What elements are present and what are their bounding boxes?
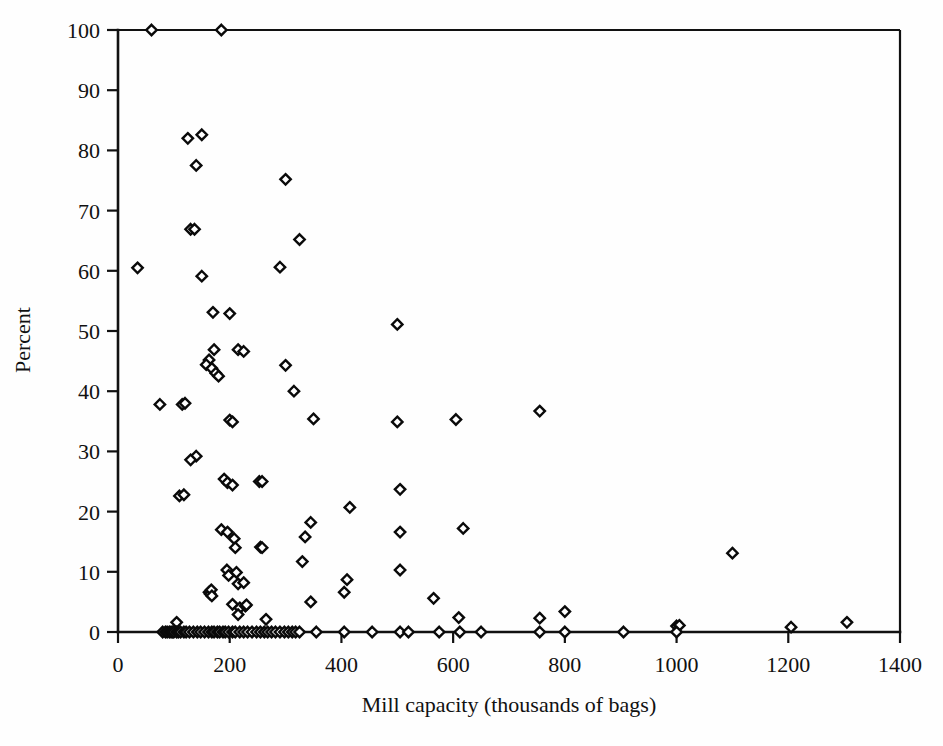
axis-tick-labels: 0102030405060708090100020040060080010001… [67, 18, 922, 677]
data-point [191, 160, 201, 170]
data-point [216, 25, 226, 35]
data-point [308, 414, 318, 424]
data-point [454, 612, 464, 622]
data-point [392, 319, 402, 329]
data-point [455, 627, 465, 637]
data-point [230, 543, 240, 553]
y-tick-label-90: 90 [78, 78, 100, 103]
data-point [458, 523, 468, 533]
data-point [367, 627, 377, 637]
x-tick-label-800: 800 [548, 652, 581, 677]
data-point [155, 399, 165, 409]
y-tick-label-60: 60 [78, 259, 100, 284]
data-point [197, 271, 207, 281]
data-point [403, 627, 413, 637]
data-point [535, 406, 545, 416]
y-tick-label-40: 40 [78, 379, 100, 404]
data-point [560, 627, 570, 637]
data-point [306, 597, 316, 607]
data-point [345, 502, 355, 512]
y-tick-label-0: 0 [89, 620, 100, 645]
x-tick-label-0: 0 [113, 652, 124, 677]
data-point [727, 548, 737, 558]
data-point [132, 263, 142, 273]
data-point [311, 627, 321, 637]
data-point [535, 613, 545, 623]
scatter-chart-figure: 0102030405060708090100020040060080010001… [0, 0, 943, 746]
x-tick-label-1000: 1000 [655, 652, 699, 677]
data-point [183, 133, 193, 143]
data-point [275, 262, 285, 272]
data-point [261, 614, 271, 624]
data-point [208, 307, 218, 317]
x-tick-label-1200: 1200 [766, 652, 810, 677]
data-point [560, 606, 570, 616]
y-tick-label-30: 30 [78, 439, 100, 464]
data-point [197, 130, 207, 140]
data-point [294, 234, 304, 244]
x-tick-label-200: 200 [213, 652, 246, 677]
data-point [209, 344, 219, 354]
data-point [395, 565, 405, 575]
plot-canvas: 0102030405060708090100020040060080010001… [0, 0, 943, 746]
y-axis-title: Percent [10, 307, 35, 373]
data-point [225, 308, 235, 318]
data-point [451, 414, 461, 424]
y-tick-label-80: 80 [78, 138, 100, 163]
data-point [289, 386, 299, 396]
data-point [280, 360, 290, 370]
data-point [280, 174, 290, 184]
data-point [618, 627, 628, 637]
axis-ticks [107, 30, 900, 643]
data-points [132, 25, 852, 637]
y-tick-label-70: 70 [78, 199, 100, 224]
data-point [339, 587, 349, 597]
data-point [428, 593, 438, 603]
x-tick-label-400: 400 [325, 652, 358, 677]
data-point [476, 627, 486, 637]
x-tick-label-600: 600 [437, 652, 470, 677]
data-point [146, 25, 156, 35]
data-point [300, 532, 310, 542]
y-tick-label-100: 100 [67, 18, 100, 43]
x-tick-label-1400: 1400 [878, 652, 922, 677]
data-point [342, 574, 352, 584]
data-point [395, 484, 405, 494]
data-point [434, 627, 444, 637]
data-point [392, 417, 402, 427]
y-tick-label-10: 10 [78, 560, 100, 585]
y-tick-label-20: 20 [78, 500, 100, 525]
y-tick-label-50: 50 [78, 319, 100, 344]
data-point [535, 627, 545, 637]
data-point [842, 617, 852, 627]
x-axis-title: Mill capacity (thousands of bags) [362, 692, 657, 717]
data-point [395, 527, 405, 537]
data-point [297, 556, 307, 566]
data-point [306, 517, 316, 527]
